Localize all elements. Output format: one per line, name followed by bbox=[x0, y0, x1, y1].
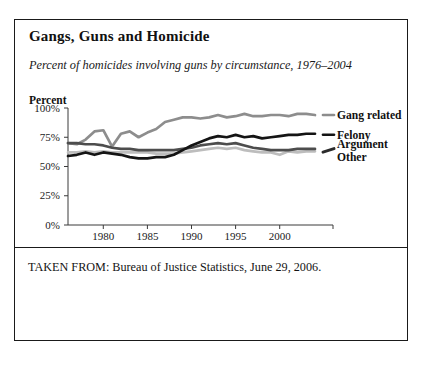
y-axis: 0%25%50%75%100% bbox=[34, 102, 68, 231]
legend-label: Gang related bbox=[337, 109, 402, 122]
chart-subtitle: Percent of homicides involving guns by c… bbox=[29, 58, 352, 73]
x-axis: 19801985199019952000 bbox=[68, 225, 333, 242]
y-tick-label: 75% bbox=[40, 131, 60, 143]
y-tick-label: 100% bbox=[34, 102, 60, 114]
chart-legend: Gang relatedFelonyArgumentOther bbox=[323, 109, 402, 164]
y-tick-label: 25% bbox=[40, 189, 60, 201]
x-tick-label: 1990 bbox=[181, 230, 204, 242]
chart-title: Gangs, Guns and Homicide bbox=[29, 28, 210, 45]
x-tick-label: 1995 bbox=[225, 230, 248, 242]
x-tick-label: 2000 bbox=[269, 230, 292, 242]
footer-divider bbox=[15, 247, 407, 248]
x-tick-label: 1985 bbox=[136, 230, 159, 242]
legend-label: Other bbox=[337, 151, 367, 164]
source-note: TAKEN FROM: Bureau of Justice Statistics… bbox=[28, 260, 321, 275]
series-line bbox=[68, 114, 315, 147]
y-tick-label: 0% bbox=[45, 219, 60, 231]
legend-label: Argument bbox=[337, 138, 388, 151]
legend-swatch-argument-other bbox=[323, 149, 334, 153]
plot-area: 0%25%50%75%100% 19801985199019952000 Gan… bbox=[15, 102, 407, 247]
y-tick-label: 50% bbox=[40, 160, 60, 172]
figure-panel: Gangs, Guns and Homicide Percent of homi… bbox=[14, 19, 408, 341]
x-tick-label: 1980 bbox=[92, 230, 115, 242]
line-chart: 0%25%50%75%100% 19801985199019952000 Gan… bbox=[15, 102, 407, 247]
series-lines bbox=[68, 114, 315, 158]
